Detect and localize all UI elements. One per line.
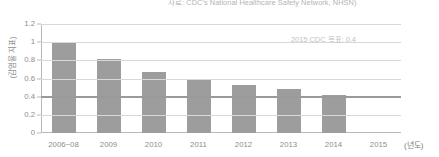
y-tick-mark <box>37 96 41 97</box>
target-gridline <box>41 96 401 98</box>
x-tick-label: 2013 <box>280 140 297 149</box>
chart-source-note: 자료: CDC's National Healthcare Safety Net… <box>168 0 436 8</box>
chart-figure: 자료: CDC's National Healthcare Safety Net… <box>0 0 439 157</box>
target-line-label: 2015 CDC 목표: 0.4 <box>291 33 356 44</box>
x-tick-label: 2010 <box>145 140 162 149</box>
x-tick-label: 2009 <box>100 140 117 149</box>
x-tick-label: 2015 <box>370 140 387 149</box>
bar[interactable] <box>187 79 211 133</box>
bar[interactable] <box>52 43 76 133</box>
y-tick-mark <box>37 78 41 79</box>
bar[interactable] <box>232 85 256 133</box>
x-tick-label: 2012 <box>235 140 252 149</box>
y-tick-mark <box>37 60 41 61</box>
x-tick-label: 2014 <box>325 140 342 149</box>
y-axis-title: (감염율 지표) <box>6 23 17 93</box>
y-tick-mark <box>37 24 41 25</box>
gridline <box>41 24 401 25</box>
x-axis-title: (년도) <box>404 139 423 150</box>
y-tick-mark <box>37 133 41 134</box>
gridline <box>41 79 401 80</box>
gridline <box>41 115 401 116</box>
y-tick-mark <box>37 42 41 43</box>
x-tick-label: 2006~08 <box>48 140 79 149</box>
bar[interactable] <box>142 72 166 133</box>
x-tick-label: 2011 <box>190 140 207 149</box>
y-tick-mark <box>37 114 41 115</box>
gridline <box>41 60 401 61</box>
